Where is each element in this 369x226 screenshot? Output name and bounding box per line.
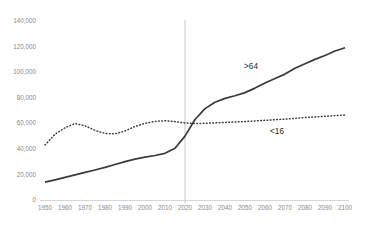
x-tick-label: 2050 xyxy=(238,204,253,211)
x-tick-label: 1960 xyxy=(58,204,73,211)
x-axis-ticks: 1950196019701980199020002010202020302040… xyxy=(38,204,353,211)
x-tick-label: 2030 xyxy=(198,204,213,211)
x-tick-label: 1950 xyxy=(38,204,53,211)
x-tick-label: 2040 xyxy=(218,204,233,211)
y-axis-ticks: 020,00040,00060,00080,000100,000120,0001… xyxy=(13,17,36,203)
x-tick-label: 2060 xyxy=(258,204,273,211)
series-annotations: >64<16 xyxy=(244,62,284,136)
y-tick-label: 20,000 xyxy=(17,171,37,178)
x-tick-label: 2070 xyxy=(278,204,293,211)
y-tick-label: 80,000 xyxy=(17,94,37,101)
population-line-chart: 020,00040,00060,00080,000100,000120,0001… xyxy=(0,0,369,226)
x-tick-label: 2020 xyxy=(178,204,193,211)
x-tick-label: 2000 xyxy=(138,204,153,211)
x-tick-label: 2010 xyxy=(158,204,173,211)
series-line-over64 xyxy=(45,48,345,182)
x-tick-label: 2080 xyxy=(298,204,313,211)
x-tick-label: 1990 xyxy=(118,204,133,211)
series-label-annotation: >64 xyxy=(244,62,258,71)
y-tick-label: 140,000 xyxy=(13,17,36,24)
y-tick-label: 0 xyxy=(32,196,36,203)
x-tick-label: 2100 xyxy=(338,204,353,211)
y-tick-label: 60,000 xyxy=(17,119,37,126)
series-label-annotation: <16 xyxy=(270,127,284,136)
y-tick-label: 120,000 xyxy=(13,43,36,50)
y-tick-label: 40,000 xyxy=(17,145,37,152)
y-tick-label: 100,000 xyxy=(13,68,36,75)
x-tick-label: 2090 xyxy=(318,204,333,211)
x-tick-label: 1980 xyxy=(98,204,113,211)
chart-canvas: 020,00040,00060,00080,000100,000120,0001… xyxy=(0,0,369,226)
x-tick-label: 1970 xyxy=(78,204,93,211)
